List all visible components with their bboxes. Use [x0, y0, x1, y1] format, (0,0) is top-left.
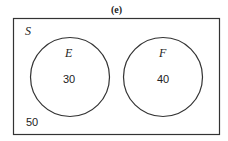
- set-f-label: F: [159, 47, 166, 59]
- set-e-label: E: [65, 47, 72, 59]
- diagram-title: (e): [111, 5, 122, 15]
- universe-label: S: [25, 25, 31, 37]
- universe-rectangle: [14, 19, 220, 135]
- outside-value: 50: [26, 117, 38, 128]
- set-e-value: 30: [63, 74, 75, 85]
- set-f-value: 40: [157, 74, 169, 85]
